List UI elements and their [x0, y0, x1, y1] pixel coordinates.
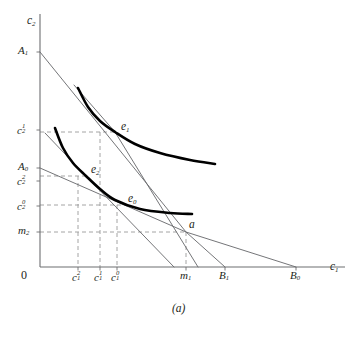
- point-label-a: a: [189, 219, 195, 231]
- x-axis-label: c1: [330, 261, 339, 273]
- origin-label: 0: [21, 269, 27, 281]
- x-tick-label-c1_1: c11: [94, 270, 104, 283]
- budget-line: [45, 133, 174, 267]
- y-tick-label-c2_2: c22: [17, 174, 27, 187]
- point-label-e2: e2: [91, 164, 100, 176]
- y-tick-label-m2: m2: [18, 225, 29, 236]
- axis-tick-marks: [37, 52, 297, 271]
- y-tick-label-A1: A1: [18, 45, 28, 56]
- point-label-e1: e1: [121, 121, 130, 133]
- y-tick-label-c2_1: c12: [17, 123, 27, 136]
- y-tick-label-c2_0: c02: [17, 199, 27, 212]
- x-tick-label-B1: B1: [219, 270, 229, 281]
- x-tick-label-B0: B0: [290, 270, 300, 281]
- y-axis-label: c2: [27, 15, 36, 27]
- x-tick-label-c1_0: c01: [111, 270, 121, 283]
- point-label-e0: e0: [128, 193, 137, 205]
- y-tick-label-A0: A0: [18, 161, 28, 172]
- budget-line: [40, 52, 225, 267]
- x-tick-label-c1_2: c21: [72, 270, 82, 283]
- figure-container: c2c10A1c12A0c22c02m2c21c11c01m1B1B0e1e2e…: [0, 0, 356, 338]
- figure-caption: (a): [172, 303, 185, 315]
- x-tick-label-m1: m1: [180, 270, 191, 281]
- indifference-curve: [55, 128, 192, 214]
- diagram-canvas: [0, 0, 356, 338]
- indifference-curve: [78, 88, 215, 164]
